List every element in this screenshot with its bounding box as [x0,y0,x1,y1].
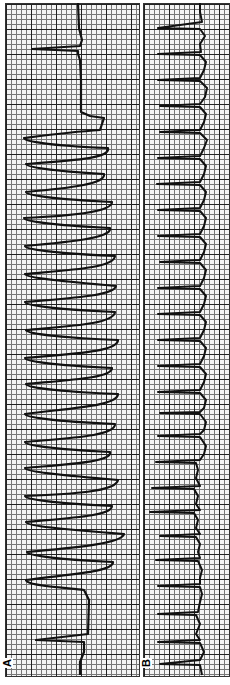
ecg-traces [0,0,230,685]
panel-label-b: B [140,658,152,668]
panel-label-a: A [1,658,13,668]
trace-a [24,3,124,675]
trace-b [150,3,207,675]
